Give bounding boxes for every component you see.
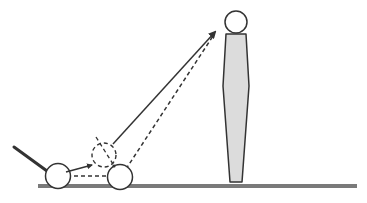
pin [223, 11, 249, 182]
contact-point [112, 164, 115, 167]
object-ball [108, 165, 133, 190]
cue-stick [14, 147, 47, 171]
trajectory-solid-arrow [113, 32, 215, 144]
diagram-canvas [0, 0, 367, 203]
trajectory-dashed [126, 36, 213, 169]
cue-ball-direction-arrow [66, 165, 92, 172]
cue-ball [46, 164, 71, 189]
pin-body [223, 34, 249, 182]
pin-head [225, 11, 247, 33]
ghost-ball [92, 143, 116, 167]
